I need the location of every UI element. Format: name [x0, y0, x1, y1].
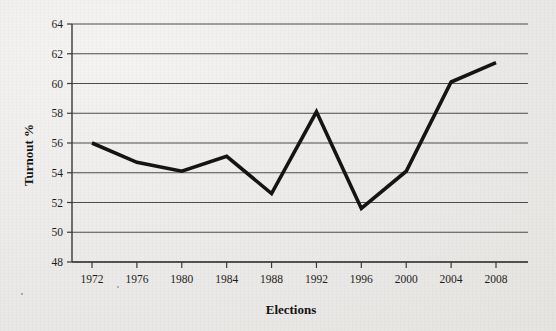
x-tick-marks-group [92, 262, 496, 268]
x-tick-label: 2008 [485, 273, 508, 285]
y-tick-label: 50 [52, 226, 64, 238]
y-tick-label: 60 [52, 78, 64, 90]
y-tick-label: 52 [52, 197, 64, 209]
x-tick-labels-group: 1972197619801984198819921996200020042008 [81, 273, 508, 285]
y-tick-label: 64 [52, 18, 64, 30]
x-tick-label: 1976 [125, 273, 148, 285]
y-tick-marks-group [67, 24, 72, 262]
x-tick-label: 1980 [170, 273, 193, 285]
y-tick-label: 62 [52, 48, 64, 60]
line-chart-figure: 485052545658606264 197219761980198419881… [0, 0, 556, 331]
scan-speck [117, 286, 119, 288]
scan-speck [21, 293, 23, 295]
y-tick-labels-group: 485052545658606264 [52, 18, 64, 268]
y-tick-label: 48 [52, 256, 64, 268]
y-tick-label: 58 [52, 107, 64, 119]
x-tick-label: 1996 [350, 273, 373, 285]
x-tick-label: 1972 [81, 273, 104, 285]
x-tick-label: 1988 [260, 273, 283, 285]
y-axis-title: Turnout % [21, 124, 36, 186]
x-tick-label: 2000 [395, 273, 418, 285]
y-tick-label: 56 [52, 137, 64, 149]
turnout-series-line [92, 63, 496, 209]
y-tick-label: 54 [52, 167, 64, 179]
chart-svg: 485052545658606264 197219761980198419881… [0, 0, 556, 331]
x-tick-label: 1984 [215, 273, 238, 285]
x-tick-label: 1992 [305, 273, 328, 285]
x-axis-title: Elections [266, 302, 317, 317]
x-tick-label: 2004 [440, 273, 463, 285]
